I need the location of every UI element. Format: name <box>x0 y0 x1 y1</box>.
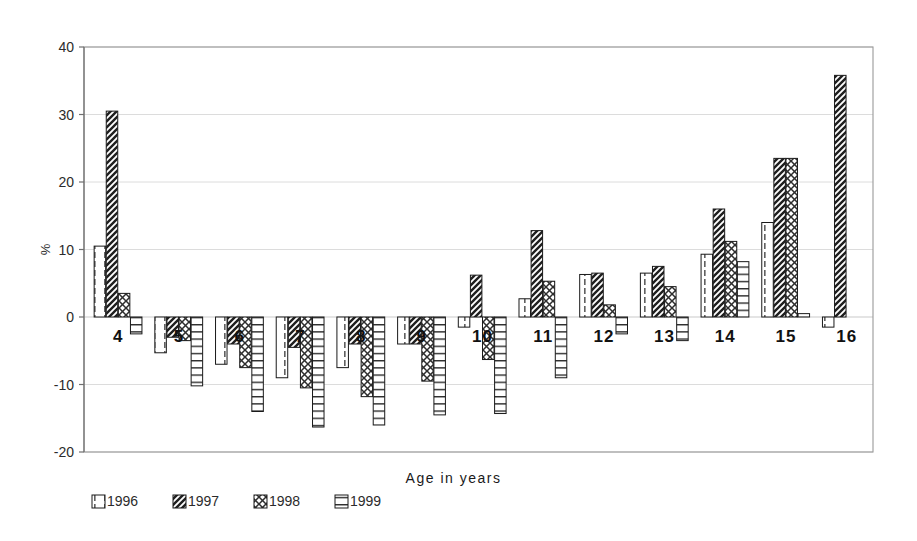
bar-1998-age-13 <box>665 287 677 317</box>
y-tick-label--20: -20 <box>54 444 74 460</box>
x-category-label-12: 12 <box>593 327 614 346</box>
y-tick-label-30: 30 <box>58 107 74 123</box>
x-category-label-9: 9 <box>417 327 427 346</box>
bar-1999-age-8 <box>373 317 385 425</box>
bar-1999-age-10 <box>495 317 507 414</box>
bar-1998-age-15 <box>786 158 798 317</box>
bar-1996-age-5 <box>155 317 167 353</box>
bar-1997-age-15 <box>774 158 786 317</box>
bar-1999-age-11 <box>555 317 567 378</box>
y-axis-tick-labels: 403020100-10-20 <box>54 39 74 460</box>
legend-swatch-1996 <box>92 495 105 508</box>
y-tick-label-20: 20 <box>58 174 74 190</box>
bar-1996-age-8 <box>337 317 349 368</box>
bar-1997-age-11 <box>531 231 543 317</box>
bar-1996-age-12 <box>580 274 592 317</box>
legend-swatch-1997 <box>173 495 186 508</box>
x-category-label-13: 13 <box>654 327 675 346</box>
bar-1997-age-14 <box>713 209 725 317</box>
x-category-label-6: 6 <box>234 327 244 346</box>
bar-1996-age-9 <box>398 317 410 344</box>
legend-item-1996: 1996 <box>92 493 138 509</box>
bar-1999-age-6 <box>252 317 263 412</box>
bar-chart-figure: 403020100-10-20 45678910111213141516 Age… <box>0 0 917 541</box>
y-axis-title: % <box>38 243 53 255</box>
bar-1999-age-9 <box>434 317 446 415</box>
bar-1996-age-7 <box>276 317 288 378</box>
bar-1997-age-13 <box>652 266 664 317</box>
x-category-label-4: 4 <box>113 327 123 346</box>
chart-legend: 1996199719981999 <box>92 493 381 509</box>
chart-canvas: 403020100-10-20 45678910111213141516 Age… <box>0 0 917 541</box>
bar-1998-age-11 <box>543 281 555 317</box>
y-tick-label-0: 0 <box>66 309 74 325</box>
y-tick-label-10: 10 <box>58 242 74 258</box>
x-category-label-7: 7 <box>295 327 305 346</box>
legend-item-1998: 1998 <box>254 493 300 509</box>
bar-1996-age-13 <box>640 273 652 317</box>
legend-label-1998: 1998 <box>269 493 300 509</box>
x-category-label-8: 8 <box>356 327 366 346</box>
y-tick-label--10: -10 <box>54 377 74 393</box>
bar-1998-age-12 <box>604 305 616 317</box>
bar-1997-age-10 <box>470 275 482 317</box>
bar-1996-age-4 <box>94 246 106 317</box>
bar-1996-age-15 <box>762 223 774 318</box>
legend-label-1997: 1997 <box>188 493 219 509</box>
bar-1996-age-16 <box>822 317 834 327</box>
x-category-label-11: 11 <box>533 327 553 346</box>
bar-1997-age-16 <box>835 75 847 317</box>
legend-swatch-1998 <box>254 495 267 508</box>
x-axis-title: Age in years <box>406 470 502 486</box>
legend-swatch-1999 <box>335 495 348 508</box>
x-category-label-14: 14 <box>715 327 736 346</box>
legend-item-1997: 1997 <box>173 493 219 509</box>
bar-1997-age-4 <box>106 111 118 317</box>
x-category-label-15: 15 <box>776 327 797 346</box>
legend-label-1999: 1999 <box>350 493 381 509</box>
bar-1998-age-14 <box>725 241 737 317</box>
bar-1999-age-13 <box>677 317 689 341</box>
bar-1996-age-11 <box>519 299 531 317</box>
bar-1998-age-4 <box>118 293 130 317</box>
bar-1999-age-15 <box>798 314 810 317</box>
bar-1999-age-14 <box>737 262 749 317</box>
bar-1996-age-6 <box>216 317 228 364</box>
bar-1996-age-10 <box>458 317 470 327</box>
bar-1999-age-12 <box>616 317 628 334</box>
x-category-label-10: 10 <box>472 327 493 346</box>
y-tick-label-40: 40 <box>58 39 74 55</box>
bar-1999-age-5 <box>191 317 203 386</box>
bar-1999-age-7 <box>313 317 325 427</box>
bar-1997-age-12 <box>592 273 604 317</box>
legend-label-1996: 1996 <box>107 493 138 509</box>
bar-1996-age-14 <box>701 254 713 317</box>
x-category-label-16: 16 <box>836 327 857 346</box>
bar-1999-age-4 <box>130 317 142 334</box>
legend-item-1999: 1999 <box>335 493 381 509</box>
x-category-label-5: 5 <box>174 327 184 346</box>
